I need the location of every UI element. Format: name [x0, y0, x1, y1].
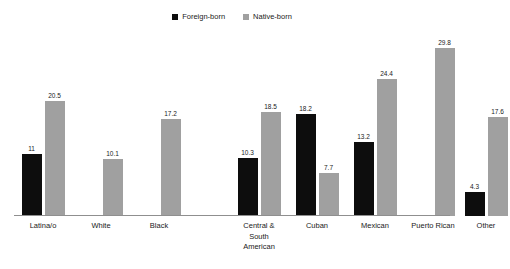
category-label: Black	[130, 221, 188, 232]
legend-label-native-born: Native-born	[253, 13, 292, 21]
bar-slot: 20.5	[45, 36, 65, 216]
legend-swatch-native-born	[243, 14, 249, 20]
bar-native[interactable]: 7.7	[319, 173, 339, 216]
chart-legend: Foreign-born Native-born	[0, 13, 464, 21]
category-label: Central & South American	[230, 221, 288, 253]
bar-slot: 11	[22, 36, 42, 216]
bar-slot: 10.3	[238, 36, 258, 216]
bar-value-label: 10.3	[241, 149, 254, 156]
bar-native[interactable]: 18.5	[261, 112, 281, 216]
bar-native[interactable]: 17.2	[161, 119, 181, 216]
bar-slot: 10.1	[103, 36, 123, 216]
bar-value-label: 29.8	[438, 39, 451, 46]
x-axis-line	[14, 215, 450, 216]
category-axis-labels: Latina/oWhiteBlackCentral & South Americ…	[14, 221, 450, 253]
bar-native[interactable]: 17.6	[488, 117, 508, 216]
bar-slot: 18.5	[261, 36, 281, 216]
bar-group: 18.27.7	[288, 36, 346, 216]
bar-groups: 1120.510.117.210.318.518.27.713.224.429.…	[14, 36, 450, 216]
bar-foreign[interactable]: 18.2	[296, 114, 316, 216]
bar-slot: 24.4	[377, 36, 397, 216]
bar-group: 4.317.6	[462, 36, 510, 216]
bar-slot: 17.2	[161, 36, 181, 216]
bar-value-label: 4.3	[470, 183, 479, 190]
category-label: Mexican	[346, 221, 404, 232]
bar-value-label: 7.7	[324, 164, 333, 171]
bar-slot: 13.2	[354, 36, 374, 216]
bar-foreign[interactable]: 4.3	[465, 192, 485, 216]
bar-slot	[412, 36, 432, 216]
category-label: Puerto Rican	[404, 221, 462, 232]
plot-area: 1120.510.117.210.318.518.27.713.224.429.…	[14, 36, 450, 216]
bar-foreign[interactable]: 13.2	[354, 142, 374, 216]
legend-swatch-foreign-born	[172, 14, 178, 20]
legend-label-foreign-born: Foreign-born	[182, 13, 225, 21]
category-label: White	[72, 221, 130, 232]
bar-slot: 4.3	[465, 36, 485, 216]
bar-slot: 17.6	[488, 36, 508, 216]
bar-value-label: 17.2	[164, 110, 177, 117]
bar-value-label: 20.5	[48, 92, 61, 99]
bar-slot	[80, 36, 100, 216]
bar-slot: 29.8	[435, 36, 455, 216]
bar-native[interactable]: 24.4	[377, 79, 397, 216]
bar-value-label: 18.2	[299, 105, 312, 112]
bar-group: 10.1	[72, 36, 130, 216]
bar-group: 17.2	[130, 36, 188, 216]
bar-group: 13.224.4	[346, 36, 404, 216]
bar-value-label: 24.4	[380, 70, 393, 77]
bar-value-label: 11	[28, 145, 35, 152]
category-label: Other	[462, 221, 510, 232]
bar-group: 10.318.5	[230, 36, 288, 216]
bar-native[interactable]: 10.1	[103, 159, 123, 216]
category-label: Latina/o	[14, 221, 72, 232]
category-label: Cuban	[288, 221, 346, 232]
bar-value-label: 10.1	[106, 150, 119, 157]
bar-slot: 18.2	[296, 36, 316, 216]
bar-slot	[138, 36, 158, 216]
bar-foreign[interactable]: 11	[22, 154, 42, 216]
bar-group: 1120.5	[14, 36, 72, 216]
bar-value-label: 18.5	[264, 103, 277, 110]
bar-value-label: 13.2	[357, 133, 370, 140]
bar-group: 29.8	[404, 36, 462, 216]
bar-slot: 7.7	[319, 36, 339, 216]
legend-item-foreign-born: Foreign-born	[172, 13, 225, 21]
bar-value-label: 17.6	[491, 108, 504, 115]
bar-native[interactable]: 29.8	[435, 48, 455, 216]
bar-foreign[interactable]: 10.3	[238, 158, 258, 216]
legend-item-native-born: Native-born	[243, 13, 292, 21]
bar-native[interactable]: 20.5	[45, 101, 65, 216]
